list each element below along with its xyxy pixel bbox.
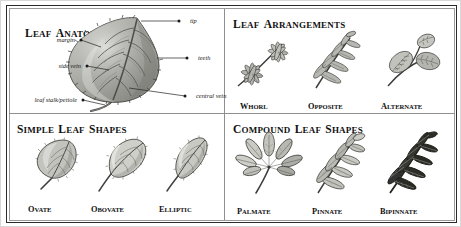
label-bipinnate-rest: IPINNATE — [386, 208, 418, 215]
section-leaf-anatomy: LEAF ANATOMY — [9, 8, 224, 113]
label-alternate-rest: LTERNATE — [387, 103, 422, 110]
callout-leaf-stalk-petiole: leaf stalk/petiole — [9, 97, 77, 103]
label-ovate: OVATE — [28, 199, 51, 215]
heading-arrangements-initial2: A — [264, 18, 273, 30]
elliptic-illustration — [153, 133, 225, 195]
palmate-illustration — [230, 133, 306, 197]
heading-simple-rest2: EAF — [66, 125, 85, 135]
callout-side-vein: side vein — [9, 63, 81, 69]
label-elliptic: ELLIPTIC — [159, 199, 192, 215]
leaf-reference-plate: LEAF ANATOMY — [0, 0, 461, 227]
section-leaf-arrangements: LEAF ARRANGEMENTS — [224, 8, 454, 113]
whorl-illustration — [228, 30, 302, 92]
label-pinnate-rest: INNATE — [317, 208, 342, 215]
pinnate-illustration — [304, 131, 382, 197]
alternate-illustration — [376, 28, 452, 92]
label-elliptic-rest: LLIPTIC — [165, 206, 192, 213]
label-obovate-rest: BOVATE — [97, 206, 124, 213]
bipinnate-illustration — [376, 131, 452, 197]
section-simple-leaf-shapes: SIMPLE LEAF SHAPES — [9, 113, 224, 220]
heading-simple-initial: S — [17, 123, 24, 135]
ovate-illustration — [19, 135, 89, 195]
label-bipinnate: BIPINNATE — [380, 201, 417, 217]
label-palmate: PALMATE — [237, 201, 271, 217]
heading-arrangements-rest1: EAF — [241, 20, 260, 30]
label-obovate: OBOVATE — [91, 199, 124, 215]
label-pinnate: PINNATE — [312, 201, 342, 217]
callout-central-vein: central vein — [196, 93, 226, 99]
label-palmate-rest: ALMATE — [242, 208, 270, 215]
label-whorl: WHORL — [240, 96, 268, 112]
label-opposite-rest: PPOSITE — [314, 103, 342, 110]
heading-arrangements-initial: L — [233, 18, 241, 30]
opposite-illustration — [300, 28, 378, 92]
label-whorl-rest: HORL — [248, 103, 267, 110]
heading-simple-rest1: IMPLE — [24, 125, 55, 135]
callout-teeth: teeth — [198, 55, 210, 61]
section-compound-leaf-shapes: COMPOUND LEAF SHAPES — [224, 113, 454, 220]
callout-tip: tip — [190, 18, 197, 24]
label-opposite: OPPOSITE — [308, 96, 343, 112]
label-alternate: ALTERNATE — [381, 96, 422, 112]
obovate-illustration — [85, 133, 159, 195]
callout-margin: margin — [9, 37, 75, 43]
label-ovate-rest: VATE — [34, 206, 51, 213]
